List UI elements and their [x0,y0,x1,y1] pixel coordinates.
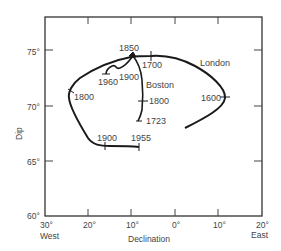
y-tick-60: 60° [27,211,40,221]
y-tick-75: 75° [27,47,40,57]
london-1955-label: 1955 [131,133,151,143]
london-1700-label: 1700 [142,60,162,70]
y-axis-title: Dip [14,127,24,140]
boston-1900-label: 1900 [119,72,139,82]
boston-label: Boston [146,80,174,90]
y-tick-65: 65° [27,157,40,167]
x-ticks-top [88,17,218,24]
x-axis-title: Declination [128,234,170,244]
west-label: West [40,231,60,241]
london-1800-label: 1800 [74,92,94,102]
x-tick-20w: 20° [83,220,96,230]
london-1850-label: 1850 [119,43,139,53]
declination-dip-chart: 75° 70° 65° 60° 30° 20° 10° 0° 10° 20° W… [0,0,281,251]
x-tick-10e: 10° [213,220,226,230]
boston-1960-label: 1960 [98,77,118,87]
x-tick-30w: 30° [40,220,53,230]
boston-1723-label: 1723 [146,116,166,126]
london-label: London [200,58,230,68]
x-tick-0: 0° [172,220,180,230]
boston-curve [106,56,143,121]
london-1900-label: 1900 [97,133,117,143]
y-ticks-right [254,50,262,161]
y-ticks-left [45,50,53,161]
x-ticks-bottom [88,209,218,216]
london-1600-label: 1600 [201,93,221,103]
x-tick-20e: 20° [256,220,269,230]
y-tick-70: 70° [27,102,40,112]
x-tick-10w: 10° [126,220,139,230]
boston-1800-label: 1800 [149,96,169,106]
east-label: East [251,230,269,240]
